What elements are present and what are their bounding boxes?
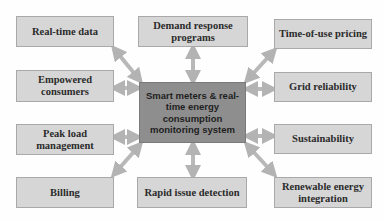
- node-label: Sustainability: [292, 133, 354, 145]
- node-billing: Billing: [16, 177, 114, 208]
- node-rapid-issue-detection: Rapid issue detection: [137, 177, 247, 208]
- node-empowered-consumers: Empowered consumers: [16, 70, 114, 102]
- arrow-billing: [116, 147, 138, 172]
- node-label: Peak load management: [20, 128, 110, 152]
- diagram-canvas: Real-time data Demand response programs …: [0, 0, 385, 221]
- arrow-time-of-use: [249, 53, 272, 78]
- node-label: Empowered consumers: [20, 74, 110, 98]
- node-label: Grid reliability: [289, 81, 357, 93]
- node-renewable-energy-integration: Renewable energy integration: [274, 177, 372, 208]
- node-label: Billing: [50, 187, 80, 199]
- node-label: Rapid issue detection: [144, 187, 239, 199]
- node-label: Real-time data: [32, 26, 98, 38]
- arrow-real-time-data: [116, 51, 138, 78]
- node-label: Demand response programs: [142, 20, 244, 44]
- node-demand-response-programs: Demand response programs: [138, 16, 248, 47]
- central-node: Smart meters & real-time energy consumpt…: [139, 82, 246, 143]
- node-time-of-use-pricing: Time-of-use pricing: [274, 19, 372, 49]
- node-grid-reliability: Grid reliability: [274, 72, 372, 102]
- node-peak-load-management: Peak load management: [16, 124, 114, 155]
- arrow-renewable: [249, 147, 272, 172]
- node-label: Time-of-use pricing: [279, 28, 367, 40]
- node-real-time-data: Real-time data: [16, 16, 114, 47]
- node-sustainability: Sustainability: [274, 124, 372, 154]
- node-label: Renewable energy integration: [278, 181, 368, 205]
- central-node-label: Smart meters & real-time energy consumpt…: [144, 90, 241, 136]
